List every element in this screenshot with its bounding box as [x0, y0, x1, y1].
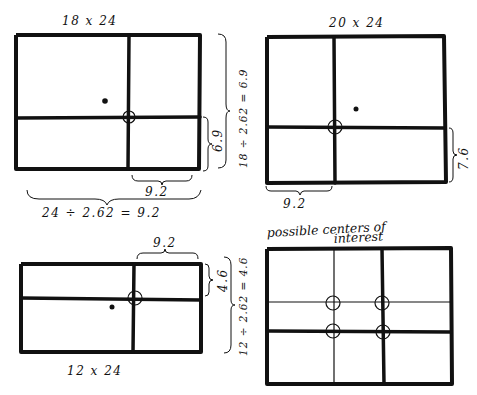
panel-title: 20 x 24 [328, 16, 384, 30]
bottom-small-label: 9.2 [145, 185, 169, 199]
frame [16, 35, 200, 169]
focal-dot [102, 98, 108, 104]
horizontal-division [16, 117, 200, 118]
frame [267, 248, 452, 384]
small-right-label: 6.9 [211, 128, 225, 152]
brace-9.2 [266, 186, 332, 195]
top-small-label: 9.2 [153, 236, 177, 250]
brace-4.6 [205, 264, 213, 296]
brace-7.6 [449, 128, 457, 182]
brace-9.2 [132, 175, 192, 185]
focal-dot [110, 305, 115, 310]
focal-dot [354, 107, 359, 112]
brace-9.2 [137, 249, 198, 259]
thick-vertical-division [382, 249, 384, 384]
panel-20x24: 20 x 24 7.6 9.2 [266, 16, 471, 211]
vertical-division [334, 37, 335, 183]
panel-title-line2: interest [333, 228, 384, 246]
small-right-label: 7.6 [457, 146, 471, 170]
panel-12x24: 9.2 4.6 12 ÷ 2.62 = 4.6 12 x 24 [21, 236, 249, 378]
panel-title: 12 x 24 [67, 364, 122, 378]
small-right-label: 4.6 [216, 268, 230, 293]
horizontal-division [21, 298, 201, 300]
vertical-division [128, 35, 129, 169]
panel-centers-of-interest: possible centers of interest [266, 219, 452, 384]
height-calc-label: 12 ÷ 2.62 = 4.6 [237, 257, 249, 356]
thick-horizontal-division [268, 331, 451, 332]
width-calc-label: 24 ÷ 2.62 = 9.2 [41, 206, 161, 220]
brace-width [27, 190, 201, 205]
panel-title: 18 x 24 [62, 14, 117, 28]
vertical-division [133, 264, 134, 352]
horizontal-division [267, 127, 445, 128]
panel-18x24: 18 x 24 6.9 18 ÷ 2.62 = 6.9 9.2 24 ÷ 2.6… [16, 14, 249, 220]
center-of-interest-marker [326, 296, 340, 310]
height-calc-label: 18 ÷ 2.62 = 6.9 [237, 69, 249, 168]
bottom-small-label: 9.2 [283, 197, 307, 211]
golden-section-diagram: 18 x 24 6.9 18 ÷ 2.62 = 6.9 9.2 24 ÷ 2.6… [0, 0, 477, 395]
